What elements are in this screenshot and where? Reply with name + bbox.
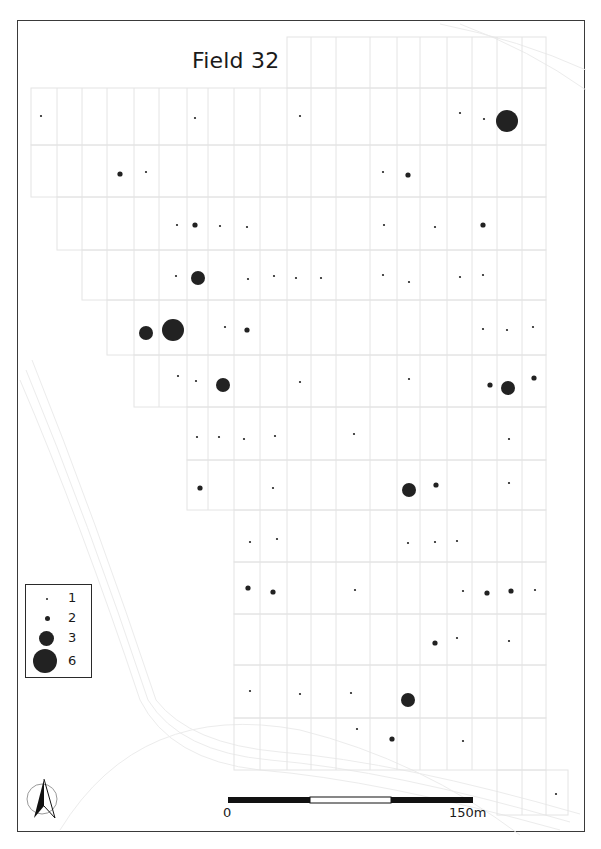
- find-point-1: [382, 171, 384, 173]
- legend-item-3: 3: [26, 629, 91, 649]
- legend-item-1: 1: [26, 590, 91, 610]
- legend: 1 2 3 6: [25, 584, 92, 678]
- find-point-2: [270, 589, 275, 594]
- find-point-1: [224, 326, 226, 328]
- find-point-1: [350, 692, 352, 694]
- find-point-2: [531, 375, 536, 380]
- grid-row: [187, 407, 546, 460]
- find-point-1: [246, 226, 248, 228]
- find-point-1: [272, 487, 274, 489]
- grid-row: [82, 250, 546, 300]
- find-point-1: [482, 328, 484, 330]
- find-point-1: [295, 277, 297, 279]
- find-point-3: [401, 693, 415, 707]
- find-point-1: [175, 275, 177, 277]
- find-point-1: [219, 225, 221, 227]
- legend-label: 3: [68, 630, 76, 646]
- find-point-6: [496, 110, 518, 132]
- find-point-1: [462, 590, 464, 592]
- find-point-1: [508, 482, 510, 484]
- grid-row: [234, 718, 546, 770]
- find-point-1: [483, 118, 485, 120]
- find-point-1: [508, 640, 510, 642]
- find-point-3: [501, 381, 515, 395]
- find-point-1: [462, 740, 464, 742]
- find-point-1: [299, 115, 301, 117]
- find-point-2: [484, 590, 489, 595]
- find-point-1: [243, 438, 245, 440]
- find-point-1: [299, 381, 301, 383]
- find-point-1: [482, 274, 484, 276]
- map-canvas: [0, 0, 601, 849]
- find-point-1: [456, 540, 458, 542]
- find-point-1: [534, 589, 536, 591]
- find-point-1: [356, 728, 358, 730]
- find-point-1: [320, 277, 322, 279]
- find-point-2: [480, 222, 485, 227]
- find-point-1: [382, 274, 384, 276]
- find-point-1: [273, 275, 275, 277]
- find-point-2: [405, 172, 410, 177]
- find-point-1: [145, 171, 147, 173]
- scale-segment-2: [310, 797, 391, 803]
- find-point-1: [508, 438, 510, 440]
- find-point-1: [276, 538, 278, 540]
- find-point-2: [245, 585, 250, 590]
- legend-label: 6: [68, 653, 76, 669]
- scale-bar: [228, 797, 473, 803]
- grid-row: [234, 614, 546, 665]
- scale-label-start: 0: [223, 805, 231, 820]
- grid-row: [287, 37, 546, 88]
- find-point-2: [432, 640, 437, 645]
- find-point-3: [402, 483, 416, 497]
- find-point-2: [389, 736, 394, 741]
- find-point-1: [434, 541, 436, 543]
- find-point-1: [354, 589, 356, 591]
- find-point-1: [195, 380, 197, 382]
- point-symbol-icon: [39, 631, 54, 646]
- find-point-1: [555, 793, 557, 795]
- grid-row: [57, 197, 546, 250]
- grid-row: [31, 145, 546, 197]
- find-point-6: [162, 319, 184, 341]
- contour-line: [460, 24, 586, 90]
- find-point-1: [274, 435, 276, 437]
- find-point-2: [244, 327, 249, 332]
- find-point-1: [408, 281, 410, 283]
- map-title: Field 32: [192, 48, 279, 73]
- find-point-1: [176, 224, 178, 226]
- legend-label: 2: [68, 610, 76, 626]
- grid-row: [187, 460, 546, 510]
- legend-item-6: 6: [26, 651, 91, 671]
- point-symbol-icon: [46, 598, 48, 600]
- scale-label-end: 150m: [449, 805, 486, 820]
- find-point-1: [218, 436, 220, 438]
- legend-label: 1: [68, 590, 76, 606]
- find-point-1: [353, 433, 355, 435]
- scale-segment-1: [228, 797, 310, 803]
- find-point-3: [191, 271, 205, 285]
- find-point-1: [532, 326, 534, 328]
- grid-row: [31, 88, 546, 145]
- point-symbol-icon: [33, 649, 57, 673]
- find-point-2: [487, 382, 492, 387]
- find-points: [40, 110, 557, 795]
- north-arrow-icon: [27, 779, 57, 818]
- find-point-3: [139, 326, 153, 340]
- find-point-1: [196, 436, 198, 438]
- grid-row: [234, 510, 546, 562]
- find-point-1: [434, 226, 436, 228]
- find-point-2: [197, 485, 202, 490]
- find-point-1: [506, 329, 508, 331]
- find-point-3: [216, 378, 230, 392]
- find-point-1: [383, 224, 385, 226]
- find-point-2: [117, 171, 122, 176]
- contour-line: [20, 380, 560, 830]
- find-point-1: [247, 278, 249, 280]
- contour-line: [32, 360, 580, 814]
- contour-lines: [20, 24, 586, 835]
- find-point-1: [459, 276, 461, 278]
- find-point-1: [456, 637, 458, 639]
- find-point-1: [299, 693, 301, 695]
- find-point-1: [407, 542, 409, 544]
